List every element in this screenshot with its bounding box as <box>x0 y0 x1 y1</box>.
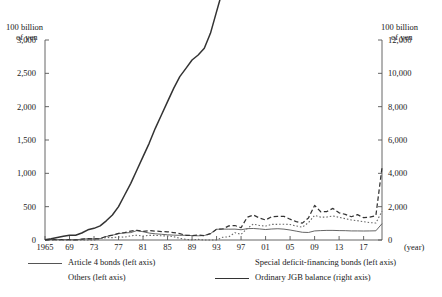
legend-label-jgb-balance: Ordinary JGB balance (right axis) <box>255 272 371 282</box>
legend-key-solid-thin-icon <box>28 263 62 268</box>
series-line-3 <box>45 0 382 240</box>
legend-key-solid-thick-icon <box>215 278 249 283</box>
plot-area <box>0 0 442 297</box>
chart-legend: Article 4 bonds (left axis) Others (left… <box>0 258 442 292</box>
legend-label-article4: Article 4 bonds (left axis) <box>68 257 155 267</box>
series-line-2 <box>45 211 382 240</box>
legend-label-others: Others (left axis) <box>68 272 126 282</box>
series-line-1 <box>45 168 382 240</box>
legend-label-special-deficit: Special deficit-financing bonds (left ax… <box>255 257 396 267</box>
chart-figure: 100 billionof yen 100 billionof yen 3,00… <box>0 0 442 297</box>
